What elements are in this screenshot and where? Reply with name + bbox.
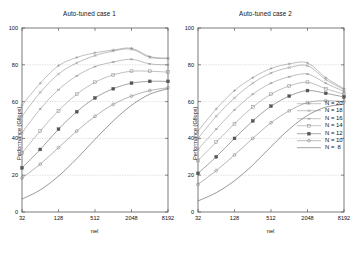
legend-marker-open-square-icon: [296, 122, 322, 129]
svg-text:8192: 8192: [162, 215, 174, 221]
legend-item: N = 18: [296, 107, 358, 114]
legend-item: N = 10: [296, 137, 358, 144]
svg-text:60: 60: [12, 99, 18, 105]
svg-text:0: 0: [191, 209, 194, 215]
y-axis-label-case-2: Performance (Gflops): [192, 107, 198, 160]
x-axis-label-case-2: nel: [181, 228, 359, 234]
x-axis-label-case-1: nel: [5, 228, 184, 234]
svg-text:20: 20: [12, 172, 18, 178]
svg-text:80: 80: [12, 62, 18, 68]
legend-label: N = 10: [322, 137, 343, 144]
legend-item: N = 12: [296, 130, 358, 137]
svg-text:128: 128: [230, 215, 239, 221]
chart-panel-case-1: Auto-tuned case 1 0204060801003212851220…: [0, 0, 179, 240]
figure-canvas: Auto-tuned case 1 0204060801003212851220…: [0, 0, 359, 256]
legend-marker-plus-icon: [296, 100, 322, 107]
legend-label: N = 12: [322, 130, 343, 137]
svg-text:512: 512: [90, 215, 99, 221]
svg-text:512: 512: [266, 215, 275, 221]
svg-text:0: 0: [15, 209, 18, 215]
legend-marker-filled-square-icon: [296, 130, 322, 137]
svg-text:128: 128: [54, 215, 63, 221]
legend-label: N = 20: [322, 100, 343, 107]
y-axis-label-case-1: Performance (Gflops): [16, 107, 22, 160]
legend-item: N = 8: [296, 144, 358, 151]
svg-text:100: 100: [185, 25, 194, 31]
legend-label: N = 16: [322, 115, 343, 122]
legend-item: N = 16: [296, 115, 358, 122]
legend-marker-line-only-icon: [296, 144, 322, 151]
legend-marker-cross-icon: [296, 107, 322, 114]
svg-text:20: 20: [188, 172, 194, 178]
svg-text:60: 60: [188, 99, 194, 105]
svg-text:2048: 2048: [125, 215, 137, 221]
legend-marker-asterisk-icon: [296, 115, 322, 122]
svg-text:2048: 2048: [301, 215, 313, 221]
legend-marker-open-circle-icon: [296, 137, 322, 144]
legend-item: N = 20: [296, 100, 358, 107]
legend-label: N = 14: [322, 122, 343, 129]
svg-text:32: 32: [195, 215, 201, 221]
legend-label: N = 8: [322, 144, 341, 151]
chart-legend: N = 20N = 18N = 16N = 14N = 12N = 10N = …: [296, 100, 358, 154]
svg-text:8192: 8192: [338, 215, 350, 221]
plot-area-case-1: 0204060801003212851220488192: [0, 0, 179, 240]
legend-item: N = 14: [296, 122, 358, 129]
svg-text:32: 32: [19, 215, 25, 221]
svg-text:100: 100: [9, 25, 18, 31]
svg-text:80: 80: [188, 62, 194, 68]
legend-label: N = 18: [322, 107, 343, 114]
